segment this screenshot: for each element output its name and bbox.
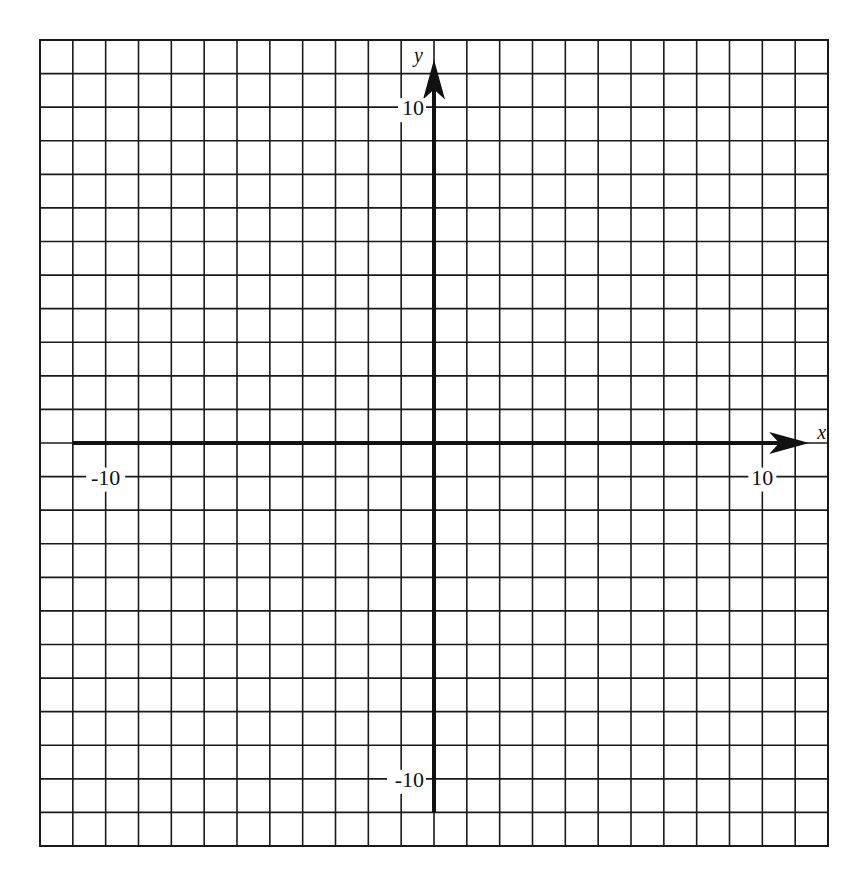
tick-labels: -101010-10xy	[86, 44, 826, 794]
x-axis-label: x	[816, 421, 826, 443]
x-tick-label: -10	[91, 465, 120, 490]
y-tick-label: 10	[402, 95, 424, 120]
x-tick-label: 10	[751, 465, 773, 490]
y-axis-label: y	[412, 44, 423, 67]
axes	[73, 60, 809, 813]
y-tick-label: -10	[395, 767, 424, 792]
coordinate-plane: -101010-10xy	[0, 0, 856, 882]
